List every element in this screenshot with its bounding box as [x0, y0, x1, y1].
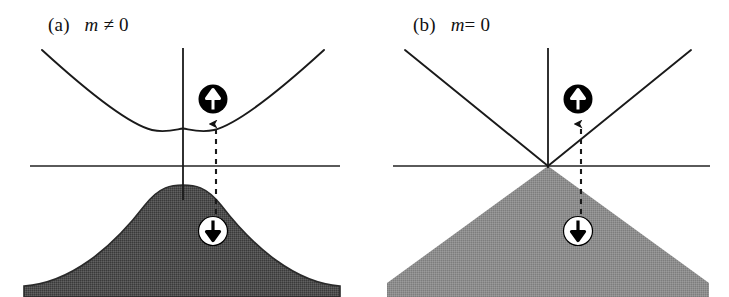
conduction-band-cone-left: [405, 50, 548, 166]
valence-band-triangle: [387, 166, 709, 297]
spin-down-circle: [199, 217, 228, 246]
panel-b-graphics: [365, 0, 729, 297]
panel-b: (b) m= 0: [365, 0, 729, 297]
spin-up-circle: [199, 85, 228, 114]
spin-down-circle: [564, 217, 593, 246]
panel-a: (a) m ≠ 0: [0, 0, 364, 297]
panel-a-graphics: [0, 0, 364, 297]
spin-up-circle: [564, 85, 593, 114]
valence-band-dome: [24, 185, 340, 297]
band-structure-figure: (a) m ≠ 0: [0, 0, 729, 297]
